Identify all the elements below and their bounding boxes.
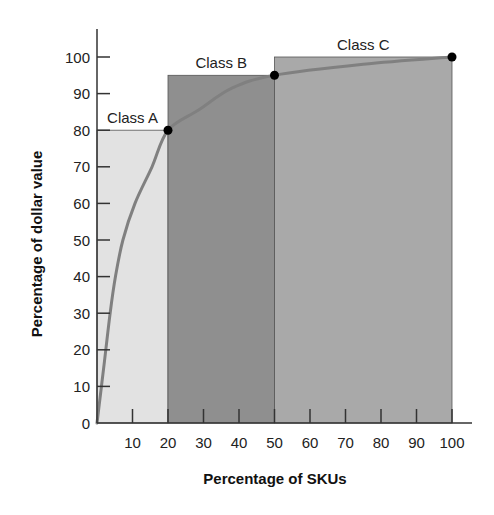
y-tick-label: 40 xyxy=(73,268,90,285)
data-point-marker xyxy=(164,126,173,135)
y-tick-label: 10 xyxy=(73,378,90,395)
x-tick-label: 10 xyxy=(124,434,141,451)
x-tick-label: 60 xyxy=(302,434,319,451)
abc-analysis-chart: 0102030405060708090100102030405060708090… xyxy=(0,0,494,515)
y-tick-label: 100 xyxy=(65,49,90,66)
class-label-class-a: Class A xyxy=(107,109,158,126)
x-tick-label: 80 xyxy=(373,434,390,451)
y-tick-label: 50 xyxy=(73,232,90,249)
class-label-class-b: Class B xyxy=(195,54,247,71)
x-tick-label: 70 xyxy=(337,434,354,451)
y-tick-label: 0 xyxy=(82,415,90,432)
class-label-class-c: Class C xyxy=(337,36,390,53)
y-tick-label: 70 xyxy=(73,158,90,175)
y-axis-title: Percentage of dollar value xyxy=(28,151,45,338)
y-tick-label: 90 xyxy=(73,85,90,102)
x-tick-label: 90 xyxy=(408,434,425,451)
x-axis-title: Percentage of SKUs xyxy=(203,470,346,487)
data-point-marker xyxy=(448,53,457,62)
x-tick-label: 40 xyxy=(231,434,248,451)
x-tick-label: 50 xyxy=(266,434,283,451)
y-tick-label: 60 xyxy=(73,195,90,212)
class-bar-class-b xyxy=(168,75,275,423)
class-bar-class-c xyxy=(275,57,453,423)
y-tick-label: 30 xyxy=(73,305,90,322)
y-tick-label: 80 xyxy=(73,122,90,139)
x-tick-label: 20 xyxy=(160,434,177,451)
x-tick-label: 30 xyxy=(195,434,212,451)
data-point-marker xyxy=(270,71,279,80)
y-tick-label: 20 xyxy=(73,341,90,358)
x-tick-label: 100 xyxy=(439,434,464,451)
